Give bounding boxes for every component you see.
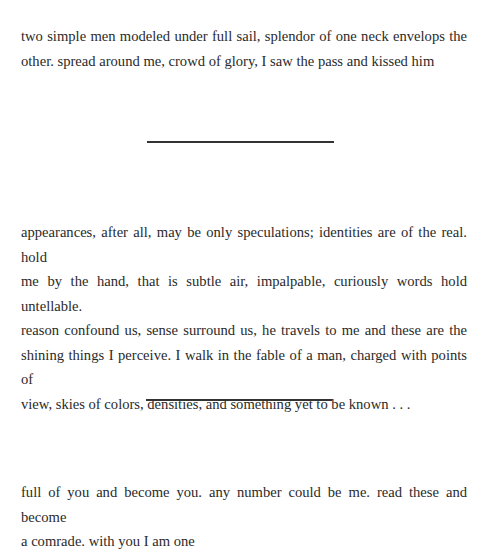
text-line: shining things I perceive. I walk in the… <box>21 343 467 392</box>
text-line: two simple men modeled under full sail, … <box>21 24 467 49</box>
text-line: appearances, after all, may be only spec… <box>21 220 467 269</box>
text-line: full of you and become you. any number c… <box>21 480 467 529</box>
text-line: view, skies of colors, densities, and so… <box>21 392 467 417</box>
section-divider <box>147 141 334 143</box>
paragraph-3: full of you and become you. any number c… <box>21 480 467 554</box>
paragraph-1: two simple men modeled under full sail, … <box>21 24 467 73</box>
text-line: other. spread around me, crowd of glory,… <box>21 49 467 74</box>
section-divider <box>146 399 332 401</box>
text-line: reason confound us, sense surround us, h… <box>21 318 467 343</box>
text-line: a comrade. with you I am one <box>21 529 467 554</box>
text-line: me by the hand, that is subtle air, impa… <box>21 269 467 318</box>
paragraph-2: appearances, after all, may be only spec… <box>21 220 467 416</box>
